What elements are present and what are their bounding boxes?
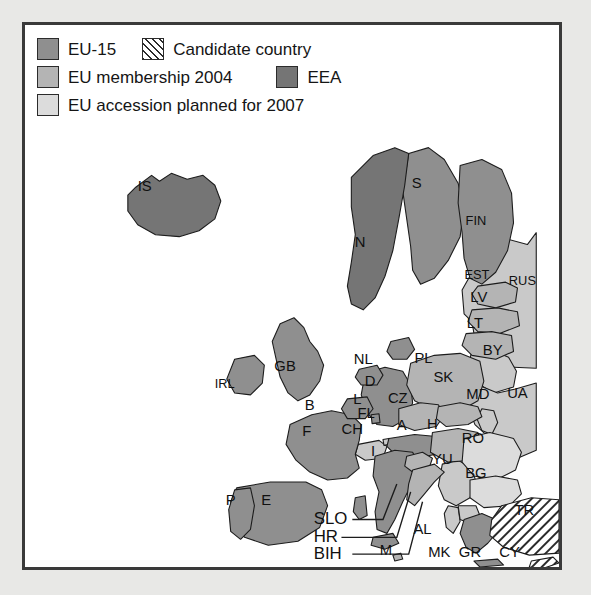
map-label-by: BY <box>483 342 503 358</box>
map-legend: EU-15 Candidate country EU membership 20… <box>25 25 559 119</box>
legend-row-1: EU-15 Candidate country <box>37 35 559 63</box>
map-callout-bih: BIH <box>314 544 342 563</box>
map-figure: ISSFINNESTLVLTRUSBYUAMDGBIRLNLDLBFFLCHAC… <box>22 22 562 570</box>
map-label-sk: SK <box>433 369 453 385</box>
legend-item-eea[interactable]: EEA <box>276 66 341 88</box>
map-label-bg: BG <box>465 465 486 481</box>
map-label-ro: RO <box>462 430 484 446</box>
map-label-s: S <box>412 175 422 191</box>
map-label-ua: UA <box>507 385 528 401</box>
map-label-est: EST <box>464 267 489 282</box>
map-callout-slo: SLO <box>314 509 348 528</box>
map-label-md: MD <box>466 386 489 402</box>
eu2007-swatch <box>37 94 59 116</box>
legend-label-candidate: Candidate country <box>173 41 311 58</box>
legend-item-eu2007[interactable]: EU accession planned for 2007 <box>37 94 304 116</box>
map-label-tr: TR <box>514 502 534 518</box>
legend-label-eea: EEA <box>307 69 341 86</box>
legend-item-candidate[interactable]: Candidate country <box>142 38 311 60</box>
legend-label-eu2007: EU accession planned for 2007 <box>68 97 304 114</box>
map-label-irl: IRL <box>215 376 235 391</box>
legend-row-3: EU accession planned for 2007 <box>37 91 559 119</box>
legend-item-eu2004[interactable]: EU membership 2004 <box>37 66 232 88</box>
map-label-fl: FL <box>358 405 375 421</box>
eu15-swatch <box>37 38 59 60</box>
map-label-b: B <box>305 397 315 413</box>
map-label-a: A <box>397 417 407 433</box>
map-label-is: IS <box>138 178 152 194</box>
map-label-i: I <box>371 443 375 459</box>
map-label-f: F <box>302 423 311 439</box>
map-label-fin: FIN <box>466 213 487 228</box>
map-label-lt: LT <box>467 315 483 331</box>
map-label-yu: YU <box>432 451 453 467</box>
map-label-lv: LV <box>470 289 487 305</box>
map-label-cz: CZ <box>388 390 408 406</box>
map-label-rus: RUS <box>509 273 536 288</box>
candidate-swatch <box>142 38 164 60</box>
map-label-d: D <box>365 373 376 389</box>
map-label-pl: PL <box>414 350 432 366</box>
country-greece-crete[interactable] <box>474 559 504 567</box>
map-label-cy: CY <box>499 544 520 560</box>
map-label-n: N <box>355 235 366 251</box>
legend-label-eu2004: EU membership 2004 <box>68 69 232 86</box>
legend-row-2: EU membership 2004 EEA <box>37 63 559 91</box>
map-label-mk: MK <box>428 544 450 560</box>
map-label-ch: CH <box>342 421 363 437</box>
eea-swatch <box>276 66 298 88</box>
legend-label-eu15: EU-15 <box>68 41 116 58</box>
map-label-p: P <box>226 492 236 508</box>
legend-item-eu15[interactable]: EU-15 <box>37 38 116 60</box>
map-label-gr: GR <box>459 544 482 560</box>
map-label-m: M <box>380 542 392 558</box>
map-label-gb: GB <box>274 358 296 374</box>
eu2004-swatch <box>37 66 59 88</box>
map-label-h: H <box>427 416 438 432</box>
map-label-nl: NL <box>354 351 373 367</box>
map-label-e: E <box>261 492 271 508</box>
